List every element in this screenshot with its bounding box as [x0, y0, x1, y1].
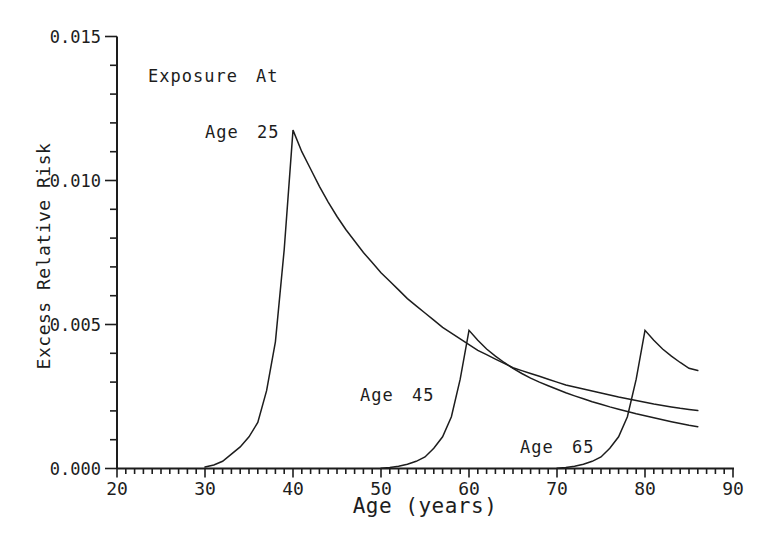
y-tick-label: 0.005 [50, 315, 101, 335]
annotation-age-45: Age 45 [360, 385, 434, 405]
y-tick-label: 0.010 [50, 171, 101, 191]
x-tick-label: 70 [546, 478, 568, 499]
y-axis-title: Excess Relative Risk [33, 143, 54, 370]
y-tick-label: 0.015 [50, 27, 101, 47]
annotation-age-25: Age 25 [205, 122, 279, 142]
annotation-age-65: Age 65 [520, 437, 594, 457]
x-tick-label: 30 [194, 478, 216, 499]
plot-canvas: 20304050607080900.0000.0050.0100.015 [0, 0, 764, 538]
x-tick-label: 80 [634, 478, 656, 499]
x-tick-label: 40 [282, 478, 304, 499]
x-axis-title: Age (years) [353, 494, 498, 518]
chart-figure: 20304050607080900.0000.0050.0100.015 Age… [0, 0, 764, 538]
annotation-exposure-at: Exposure At [148, 66, 279, 86]
x-tick-label: 20 [106, 478, 128, 499]
y-tick-label: 0.000 [50, 459, 101, 479]
x-tick-label: 90 [722, 478, 744, 499]
